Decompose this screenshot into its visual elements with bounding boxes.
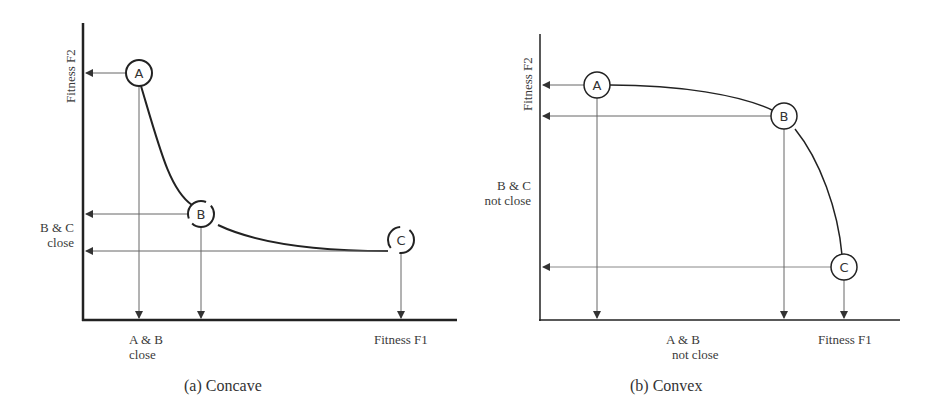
convex-caption: (b) Convex <box>630 377 702 395</box>
concave-point-c-label: C <box>396 233 405 248</box>
concave-front-curve <box>141 86 388 251</box>
concave-panel: A B C <box>82 23 457 321</box>
convex-panel: A B C <box>539 34 900 321</box>
convex-y-annotation: B & C not close <box>472 178 531 208</box>
convex-x-annotation-line2: not close <box>672 347 726 362</box>
concave-point-b: B <box>188 201 214 227</box>
concave-caption: (a) Concave <box>184 377 262 395</box>
concave-y-annotation: B & C close <box>30 220 74 250</box>
convex-point-a: A <box>584 72 610 98</box>
concave-x-annotation-line2: close <box>129 347 163 362</box>
convex-y-annotation-line2: not close <box>472 193 531 208</box>
concave-point-c: C <box>388 227 414 253</box>
convex-point-a-label: A <box>593 78 602 93</box>
convex-x-axis-label: Fitness F1 <box>818 332 872 347</box>
concave-point-b-label: B <box>197 207 206 222</box>
convex-y-axis-label: Fitness F2 <box>520 57 536 111</box>
convex-point-c-label: C <box>839 260 848 275</box>
concave-x-annotation-line1: A & B <box>129 332 163 347</box>
concave-x-axis-label: Fitness F1 <box>374 332 428 347</box>
convex-front-curve <box>610 85 842 255</box>
convex-x-annotation: A & B not close <box>672 332 726 362</box>
convex-point-b: B <box>771 103 797 129</box>
concave-y-annotation-line2: close <box>30 235 74 250</box>
convex-point-b-label: B <box>780 109 789 124</box>
convex-x-annotation-line1: A & B <box>666 332 726 347</box>
concave-y-axis-label: Fitness F2 <box>63 49 79 103</box>
concave-x-annotation: A & B close <box>129 332 163 362</box>
concave-point-a: A <box>126 60 152 86</box>
convex-y-annotation-line1: B & C <box>472 178 531 193</box>
convex-point-c: C <box>831 254 857 280</box>
concave-y-annotation-line1: B & C <box>30 220 74 235</box>
concave-point-a-label: A <box>135 66 144 81</box>
